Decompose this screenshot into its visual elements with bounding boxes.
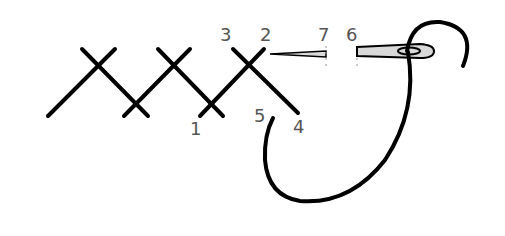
step-label-7: 7	[318, 26, 329, 44]
step-label-6: 6	[346, 26, 357, 44]
step-label-2: 2	[260, 26, 271, 44]
step-label-3: 3	[220, 26, 231, 44]
step-label-5: 5	[254, 107, 265, 125]
herringbone-stitch-diagram	[0, 0, 505, 236]
step-label-4: 4	[293, 118, 304, 136]
step-label-1: 1	[190, 120, 201, 138]
